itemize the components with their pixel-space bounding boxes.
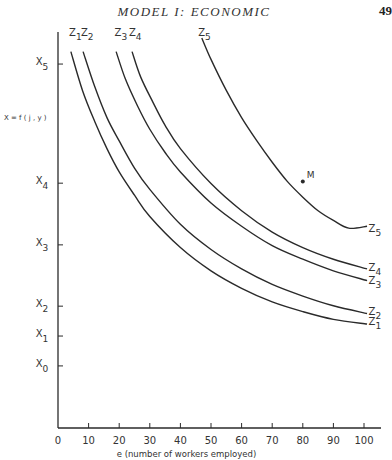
curve-label-z3-end: Z3 [369, 275, 382, 290]
x-tick-label: 80 [296, 435, 309, 446]
curve-label-z2-top: Z2 [81, 27, 94, 42]
y-axis-title: X = f ( j , y ) [4, 114, 47, 122]
isoquant-z1 [71, 52, 367, 324]
y-tick-label: X2 [36, 298, 49, 314]
isoquant-z3 [116, 52, 367, 281]
x-tick-label: 40 [174, 435, 187, 446]
point-m-marker [301, 180, 305, 184]
x-tick-label: 0 [55, 435, 61, 446]
point-m-label: M [307, 170, 315, 180]
x-tick-label: 20 [113, 435, 126, 446]
y-tick-label: X0 [36, 358, 49, 374]
x-tick-label: 100 [354, 435, 373, 446]
chart-axes [58, 32, 381, 428]
x-tick-label: 90 [327, 435, 340, 446]
curve-label-z5-end: Z5 [369, 223, 382, 238]
chart-labels: 0102030405060708090100e (number of worke… [4, 27, 381, 459]
curve-label-z5-top: Z5 [198, 27, 211, 42]
x-tick-label: 60 [235, 435, 248, 446]
isoquant-z4 [132, 52, 367, 269]
x-tick-label: 70 [266, 435, 279, 446]
y-tick-label: X5 [36, 56, 49, 72]
y-tick-label: X4 [36, 175, 49, 191]
y-tick-label: X1 [36, 328, 49, 344]
x-axis-title: e (number of workers employed) [117, 449, 257, 459]
x-tick-label: 50 [205, 435, 218, 446]
x-tick-label: 10 [82, 435, 95, 446]
x-tick-label: 30 [143, 435, 156, 446]
isoquant-z5 [202, 38, 367, 228]
curve-label-z1-top: Z1 [69, 27, 82, 42]
y-tick-label: X3 [36, 237, 49, 253]
curve-label-z4-top: Z4 [129, 27, 142, 42]
curve-label-z3-top: Z3 [115, 27, 128, 42]
chart-curves [71, 38, 367, 324]
